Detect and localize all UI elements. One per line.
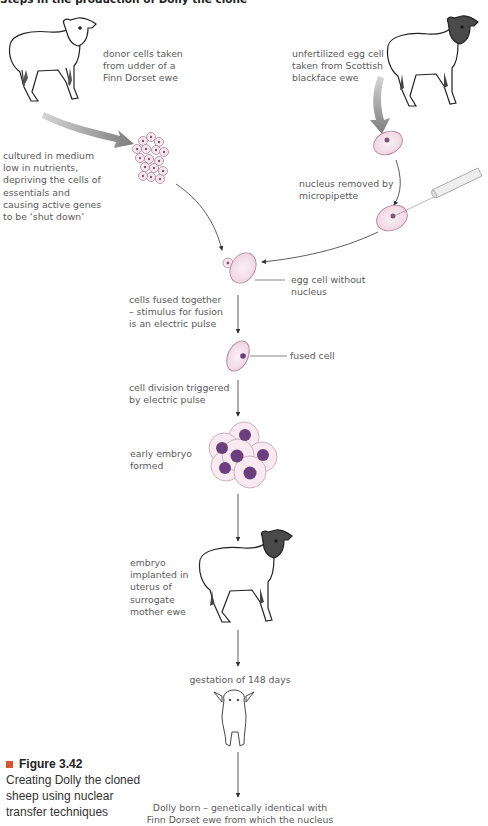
label-early-embryo: early embryo formed bbox=[130, 448, 192, 472]
arrow-egg-to-fusion bbox=[262, 232, 378, 262]
grey-arrow-donor-to-culture bbox=[42, 112, 134, 148]
cloning-flow-diagram bbox=[0, 0, 488, 826]
finn-dorset-sheep-icon bbox=[9, 18, 96, 101]
cultured-cell-cluster bbox=[133, 133, 169, 184]
label-gestation: gestation of 148 days bbox=[170, 674, 310, 686]
arrow-egg-to-enucleation bbox=[394, 160, 400, 205]
micropipette-icon bbox=[394, 168, 482, 216]
grey-arrow-ewe-to-egg bbox=[370, 76, 390, 134]
figure-number: Figure 3.42 bbox=[19, 757, 82, 771]
fused-cell bbox=[222, 337, 254, 374]
label-nucleus-removed: nucleus removed by micropipette bbox=[299, 178, 393, 202]
surrogate-mother-sheep-icon bbox=[199, 530, 292, 622]
figure-caption: Figure 3.42 Creating Dolly the cloned sh… bbox=[6, 757, 156, 820]
label-cells-fused: cells fused together – stimulus for fusi… bbox=[129, 294, 223, 331]
label-donor-cells: donor cells taken from udder of a Finn D… bbox=[103, 48, 183, 85]
label-unfertilized-egg: unfertilized egg cell taken from Scottis… bbox=[292, 48, 384, 85]
label-cell-division: cell division triggered by electric puls… bbox=[129, 382, 229, 406]
fusion-cells bbox=[223, 248, 261, 288]
arrow-culture-to-fusion bbox=[176, 184, 222, 250]
label-cultured: cultured in medium low in nutrients, dep… bbox=[3, 150, 101, 223]
label-fused-cell: fused cell bbox=[290, 350, 335, 362]
label-dolly-born: Dolly born – genetically identical with … bbox=[140, 802, 340, 826]
unfertilized-egg-cell bbox=[370, 127, 406, 160]
egg-enucleation bbox=[372, 200, 411, 235]
caption-text: Creating Dolly the cloned sheep using nu… bbox=[6, 772, 156, 820]
dolly-lamb-icon bbox=[214, 690, 254, 746]
scottish-blackface-sheep-icon bbox=[387, 16, 478, 106]
label-embryo-implanted: embryo implanted in uterus of surrogate … bbox=[130, 557, 188, 618]
caption-marker-icon bbox=[6, 761, 13, 768]
early-embryo bbox=[209, 422, 277, 488]
label-egg-without-nucleus: egg cell without nucleus bbox=[291, 274, 365, 298]
